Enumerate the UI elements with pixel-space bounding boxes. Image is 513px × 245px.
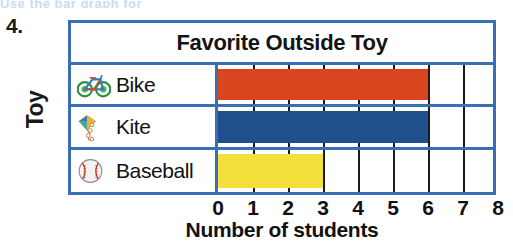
- bar-chart: Favorite Outside Toy: [68, 20, 496, 195]
- bar-track-bike: [218, 65, 493, 104]
- x-tick-3: 3: [309, 196, 337, 220]
- chart-title: Favorite Outside Toy: [71, 23, 493, 65]
- row-label-text: Kite: [116, 115, 151, 139]
- row-label-kite: Kite: [71, 107, 218, 146]
- x-tick-6: 6: [414, 196, 442, 220]
- bar-track-baseball: [218, 150, 493, 192]
- row-label-bike: Bike: [71, 65, 218, 104]
- x-axis-label: Number of students: [68, 218, 496, 242]
- bar-baseball: [218, 154, 323, 188]
- bar-kite: [218, 111, 428, 142]
- x-tick-7: 7: [449, 196, 477, 220]
- scan-bleed-text: Use the bar graph for: [0, 0, 513, 8]
- row-label-baseball: Baseball: [71, 150, 218, 192]
- problem-number: 4.: [6, 14, 23, 38]
- baseball-icon: [77, 155, 111, 187]
- row-label-text: Bike: [116, 73, 155, 97]
- bicycle-icon: [77, 69, 111, 101]
- row-label-text: Baseball: [116, 159, 193, 183]
- x-tick-4: 4: [344, 196, 372, 220]
- table-row: Kite: [71, 107, 493, 149]
- x-tick-2: 2: [274, 196, 302, 220]
- kite-icon: [77, 111, 111, 143]
- x-tick-8: 8: [484, 196, 512, 220]
- y-axis-label: Toy: [22, 70, 49, 150]
- x-tick-0: 0: [204, 196, 232, 220]
- table-row: Bike: [71, 65, 493, 107]
- plot-area: Bike Kite: [71, 65, 493, 192]
- x-tick-1: 1: [239, 196, 267, 220]
- bar-bike: [218, 69, 428, 100]
- bar-track-kite: [218, 107, 493, 146]
- x-tick-5: 5: [379, 196, 407, 220]
- table-row: Baseball: [71, 150, 493, 192]
